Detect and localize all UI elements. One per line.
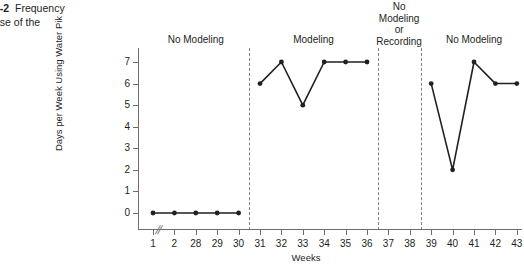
y-axis-tick xyxy=(133,213,138,214)
data-point-marker xyxy=(172,211,177,216)
y-axis-tick xyxy=(133,127,138,128)
phase-label: Modeling xyxy=(269,34,359,46)
x-axis-tick-label: 30 xyxy=(227,238,251,249)
x-axis-tick-label: 1 xyxy=(141,238,165,249)
x-axis-tick xyxy=(517,230,518,235)
x-axis-tick-label: 39 xyxy=(419,238,443,249)
x-axis-tick-label: 35 xyxy=(334,238,358,249)
data-point-marker xyxy=(300,103,305,108)
y-axis-tick xyxy=(133,62,138,63)
y-axis-tick-label: 5 xyxy=(117,100,130,110)
y-axis-tick xyxy=(133,105,138,106)
x-axis-tick xyxy=(495,230,496,235)
data-point-marker xyxy=(472,60,477,65)
x-axis-tick-label: 32 xyxy=(269,238,293,249)
x-axis-tick-label: 34 xyxy=(312,238,336,249)
phase-label: No Modeling xyxy=(151,34,241,46)
phase-label: No Modeling or Recording xyxy=(371,1,427,47)
x-axis-tick xyxy=(388,230,389,235)
x-axis-tick xyxy=(453,230,454,235)
x-axis-tick xyxy=(367,230,368,235)
x-axis-tick xyxy=(303,230,304,235)
data-point-marker xyxy=(365,60,370,65)
data-point-marker xyxy=(258,81,263,86)
x-axis-tick xyxy=(239,230,240,235)
x-axis-tick-label: 42 xyxy=(483,238,507,249)
x-axis-tick xyxy=(196,230,197,235)
x-axis-tick xyxy=(281,230,282,235)
data-point-marker xyxy=(215,211,220,216)
x-axis-tick xyxy=(346,230,347,235)
phase-divider xyxy=(378,48,379,230)
y-axis-tick xyxy=(133,191,138,192)
x-axis-tick xyxy=(217,230,218,235)
y-axis-tick-label: 3 xyxy=(117,143,130,153)
data-line-segment xyxy=(260,62,367,105)
x-axis-tick-label: 29 xyxy=(205,238,229,249)
data-point-marker xyxy=(343,60,348,65)
y-axis-tick xyxy=(133,170,138,171)
x-axis-tick xyxy=(174,230,175,235)
x-axis-tick xyxy=(153,230,154,235)
x-axis-tick xyxy=(260,230,261,235)
phase-divider xyxy=(421,48,422,230)
x-axis-tick xyxy=(431,230,432,235)
y-axis-tick-label: 2 xyxy=(117,165,130,175)
x-axis-tick-label: 37 xyxy=(376,238,400,249)
y-axis-line xyxy=(138,48,139,230)
phase-divider xyxy=(249,48,250,230)
x-axis-title: Weeks xyxy=(276,252,336,263)
x-axis-tick-label: 43 xyxy=(505,238,524,249)
y-axis-tick-label: 1 xyxy=(117,186,130,196)
line-chart-figure: Days per Week Using Water Pik Weeks // 0… xyxy=(0,0,524,268)
x-axis-tick-label: 41 xyxy=(462,238,486,249)
y-axis-tick-label: 0 xyxy=(117,208,130,218)
y-axis-tick xyxy=(133,84,138,85)
y-axis-tick-label: 7 xyxy=(117,57,130,67)
data-point-marker xyxy=(429,81,434,86)
x-axis-tick-label: 38 xyxy=(398,238,422,249)
y-axis-tick xyxy=(133,148,138,149)
x-axis-tick-label: 36 xyxy=(355,238,379,249)
data-point-marker xyxy=(193,211,198,216)
data-point-marker xyxy=(236,211,241,216)
phase-label: No Modeling xyxy=(429,34,519,46)
data-point-marker xyxy=(279,60,284,65)
data-point-marker xyxy=(450,167,455,172)
x-axis-tick-label: 33 xyxy=(291,238,315,249)
x-axis-tick xyxy=(324,230,325,235)
x-axis-tick xyxy=(410,230,411,235)
x-axis-tick-label: 2 xyxy=(162,238,186,249)
x-axis-break-icon: // xyxy=(154,224,163,236)
y-axis-title: Days per Week Using Water Pik xyxy=(53,0,64,184)
data-line-segment xyxy=(431,62,517,170)
y-axis-tick-label: 6 xyxy=(117,79,130,89)
x-axis-tick xyxy=(474,230,475,235)
data-point-marker xyxy=(322,60,327,65)
x-axis-tick-label: 40 xyxy=(441,238,465,249)
y-axis-tick-label: 4 xyxy=(117,122,130,132)
x-axis-tick-label: 28 xyxy=(184,238,208,249)
x-axis-tick-label: 31 xyxy=(248,238,272,249)
data-point-marker xyxy=(514,81,519,86)
data-point-marker xyxy=(493,81,498,86)
data-point-marker xyxy=(151,211,156,216)
